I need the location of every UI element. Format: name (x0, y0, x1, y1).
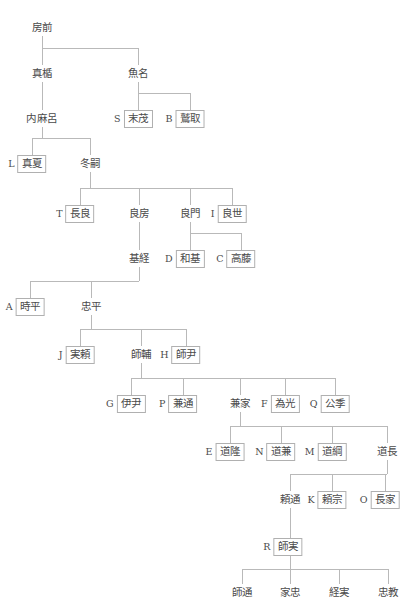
person-node-tadanori[interactable]: 忠教 (375, 584, 402, 601)
person-node-yoshikado[interactable]: 良門 (177, 205, 204, 222)
person-name-moromichi: 師通 (229, 585, 256, 601)
person-node-matate[interactable]: 真楯 (29, 65, 56, 82)
person-node-uchimaro[interactable]: 内麻呂 (23, 110, 61, 127)
person-name-fusasaki: 房前 (29, 20, 56, 36)
person-node-michinaga[interactable]: 道長 (374, 443, 401, 460)
person-node-nagara[interactable]: T長良 (56, 205, 94, 222)
person-name-michinaga: 道長 (374, 444, 401, 460)
connector-line (42, 82, 43, 110)
connector-line (339, 569, 340, 584)
person-node-yoshifusa[interactable]: 良房 (126, 205, 153, 222)
connector-line (285, 378, 286, 395)
person-tag-takafuji: C (216, 250, 223, 267)
person-tag-motoki: D (165, 250, 173, 267)
person-name-tadanori: 忠教 (375, 585, 402, 601)
connector-line (190, 233, 191, 250)
connector-line (387, 460, 388, 474)
person-node-yoshiyo[interactable]: I良世 (211, 205, 247, 222)
person-name-fuyutsugu: 冬嗣 (77, 156, 104, 172)
person-node-tokihira[interactable]: A時平 (6, 298, 45, 315)
person-name-morotada: 師尹 (172, 346, 201, 364)
connector-line (80, 188, 232, 189)
person-name-takafuji: 高藤 (227, 250, 256, 268)
connector-line (230, 426, 387, 427)
person-node-ietada[interactable]: 家忠 (277, 584, 304, 601)
connector-line (139, 188, 140, 205)
person-node-morozane[interactable]: R師実 (263, 538, 302, 555)
person-name-yoshiyo: 良世 (218, 205, 247, 223)
person-node-takafuji[interactable]: C高藤 (216, 250, 255, 267)
connector-line (138, 93, 190, 94)
connector-line (290, 508, 291, 538)
connector-line (230, 426, 231, 443)
person-tag-michitsuna: M (305, 443, 315, 460)
person-name-michitaka: 道隆 (216, 443, 245, 461)
person-name-washitori: 鷲取 (176, 110, 205, 128)
person-node-michitaka[interactable]: E道隆 (206, 443, 245, 460)
connector-line (32, 138, 33, 155)
person-node-mototsune[interactable]: 基経 (126, 250, 153, 267)
person-name-uona: 魚名 (125, 66, 152, 82)
person-name-uchimaro: 内麻呂 (23, 111, 61, 127)
person-node-saneyori[interactable]: J実頼 (59, 346, 95, 363)
person-name-morozane: 師実 (274, 538, 303, 556)
person-tag-nagaie: O (360, 491, 368, 508)
person-name-suemochi: 末茂 (124, 110, 153, 128)
connector-line (190, 188, 191, 205)
connector-line (387, 426, 388, 443)
person-node-tsunezane[interactable]: 経実 (326, 584, 353, 601)
connector-line (138, 48, 139, 65)
person-node-tadahira[interactable]: 忠平 (78, 298, 105, 315)
person-node-tamemitsu[interactable]: F為光 (261, 395, 300, 412)
connector-line (42, 36, 43, 48)
person-name-tokihira: 時平 (16, 298, 45, 316)
person-node-motoki[interactable]: D和基 (165, 250, 205, 267)
person-node-koretada[interactable]: G伊尹 (106, 395, 146, 412)
connector-line (80, 329, 186, 330)
person-tag-yoshiyo: I (211, 205, 215, 222)
person-node-manatsu[interactable]: L真夏 (8, 155, 46, 172)
connector-line (131, 378, 132, 395)
person-tag-michitaka: E (206, 443, 213, 460)
person-node-nagaie[interactable]: O長家 (360, 491, 400, 508)
person-node-michikane[interactable]: N道兼 (255, 443, 295, 460)
person-name-kaneie: 兼家 (227, 396, 254, 412)
person-node-yorimune[interactable]: K頼宗 (307, 491, 346, 508)
person-name-kanemichi: 兼通 (169, 395, 198, 413)
connector-line (385, 474, 386, 491)
person-name-michitsuna: 道綱 (318, 443, 347, 461)
person-node-michitsuna[interactable]: M道綱 (305, 443, 347, 460)
person-node-fusasaki[interactable]: 房前 (29, 19, 56, 36)
connector-line (141, 363, 142, 378)
person-node-yorimichi[interactable]: 頼通 (277, 491, 304, 508)
connector-line (388, 569, 389, 584)
connector-line (290, 474, 291, 491)
person-name-saneyori: 実頼 (66, 346, 95, 364)
connector-line (131, 378, 335, 379)
person-name-yorimune: 頼宗 (318, 491, 347, 509)
person-node-kaneie[interactable]: 兼家 (227, 395, 254, 412)
person-node-kinsue[interactable]: Q公季 (310, 395, 350, 412)
person-node-fuyutsugu[interactable]: 冬嗣 (77, 155, 104, 172)
person-node-suemochi[interactable]: S末茂 (114, 110, 153, 127)
person-node-morosuke[interactable]: 師輔 (128, 346, 155, 363)
connector-line (42, 127, 43, 138)
person-tag-suemochi: S (114, 110, 121, 127)
connector-line (290, 474, 387, 475)
person-name-tadahira: 忠平 (78, 299, 105, 315)
connector-line (138, 82, 139, 93)
person-node-washitori[interactable]: B鷲取 (166, 110, 205, 127)
person-node-uona[interactable]: 魚名 (125, 65, 152, 82)
connector-line (42, 48, 43, 65)
person-node-kanemichi[interactable]: P兼通 (159, 395, 197, 412)
person-tag-morotada: H (160, 346, 168, 363)
connector-line (190, 222, 191, 233)
person-name-morosuke: 師輔 (128, 347, 155, 363)
person-tag-koretada: G (106, 395, 114, 412)
person-name-yorimichi: 頼通 (277, 492, 304, 508)
genealogy-tree: 房前真楯魚名内麻呂S末茂B鷲取L真夏冬嗣T長良良房良門I良世基経D和基C高藤A時… (0, 0, 419, 610)
person-node-moromichi[interactable]: 師通 (229, 584, 256, 601)
connector-line (281, 426, 282, 443)
person-tag-manatsu: L (8, 155, 14, 172)
person-node-morotada[interactable]: H師尹 (160, 346, 200, 363)
